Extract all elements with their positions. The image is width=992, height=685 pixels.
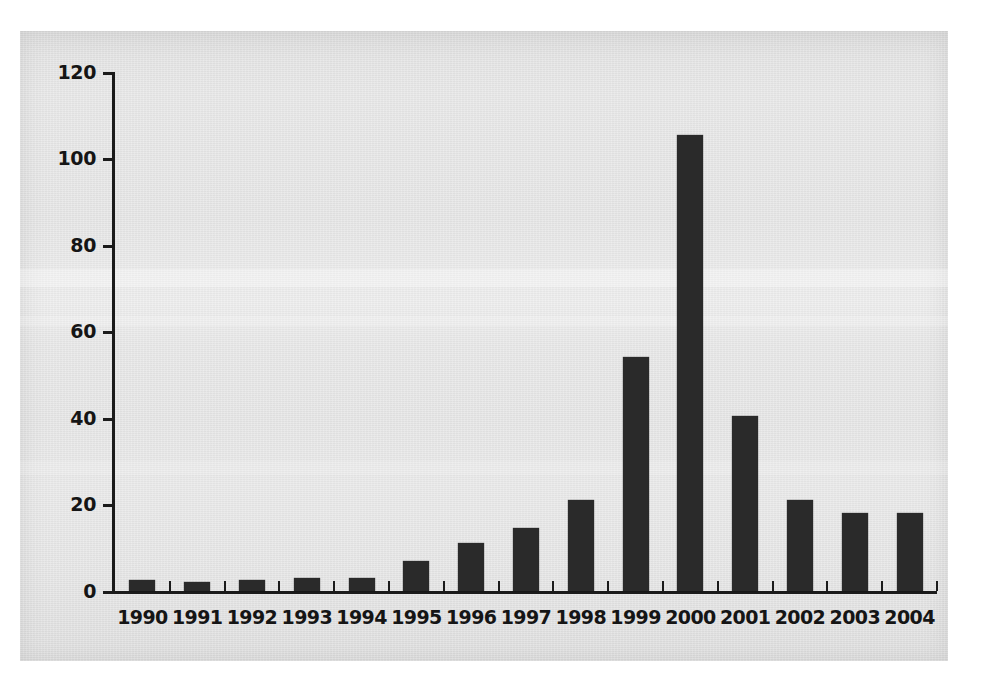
bar-2002	[787, 500, 813, 591]
bar-1999	[623, 357, 649, 591]
bar-1993	[294, 578, 320, 591]
x-tick-1992	[278, 581, 280, 591]
bar-1990	[129, 580, 155, 591]
x-axis-label-1993: 1993	[279, 608, 334, 627]
y-axis-label-40: 40	[38, 409, 96, 428]
y-tick-60	[103, 331, 113, 334]
y-axis-label-60: 60	[38, 322, 96, 341]
bar-2001	[732, 416, 758, 591]
x-axis-label-1992: 1992	[225, 608, 280, 627]
x-axis-label-2002: 2002	[773, 608, 828, 627]
figure-plate: 120 100 80 60 40 20 0 199019911992199319…	[0, 0, 992, 685]
y-axis-label-80: 80	[38, 236, 96, 255]
y-axis-label-100: 100	[38, 149, 96, 168]
y-tick-120	[103, 72, 113, 75]
x-tick-2004	[936, 581, 938, 591]
x-tick-1996	[498, 581, 500, 591]
x-tick-1997	[552, 581, 554, 591]
bar-1991	[184, 582, 210, 591]
x-axis-label-2001: 2001	[718, 608, 773, 627]
y-axis-label-120: 120	[38, 63, 96, 82]
bar-2003	[842, 513, 868, 591]
bar-1995	[403, 561, 429, 591]
x-tick-1993	[333, 581, 335, 591]
x-axis-label-1995: 1995	[389, 608, 444, 627]
y-axis-label-20: 20	[38, 495, 96, 514]
x-tick-1994	[388, 581, 390, 591]
y-tick-40	[103, 418, 113, 421]
x-tick-1991	[224, 581, 226, 591]
bar-1994	[349, 578, 375, 591]
y-axis-label-0: 0	[38, 582, 96, 601]
bar-2004	[897, 513, 923, 591]
x-axis-line	[112, 591, 937, 594]
x-tick-1998	[607, 581, 609, 591]
x-axis-label-2004: 2004	[882, 608, 937, 627]
x-tick-2000	[717, 581, 719, 591]
x-tick-1995	[443, 581, 445, 591]
x-axis-label-1990: 1990	[115, 608, 170, 627]
y-tick-100	[103, 158, 113, 161]
x-axis-label-1997: 1997	[499, 608, 554, 627]
bar-1998	[568, 500, 594, 591]
bar-2000	[677, 135, 703, 591]
y-tick-0	[103, 591, 113, 594]
x-tick-2003	[881, 581, 883, 591]
bar-1996	[458, 543, 484, 591]
x-tick-1990	[169, 581, 171, 591]
y-tick-80	[103, 245, 113, 248]
x-axis-label-1999: 1999	[608, 608, 663, 627]
x-axis-label-1991: 1991	[170, 608, 225, 627]
x-axis-label-1994: 1994	[334, 608, 389, 627]
bar-1992	[239, 580, 265, 591]
x-axis-label-2000: 2000	[663, 608, 718, 627]
x-tick-2002	[826, 581, 828, 591]
x-axis-label-2003: 2003	[827, 608, 882, 627]
bar-chart: 120 100 80 60 40 20 0 199019911992199319…	[0, 0, 992, 685]
x-axis-label-1996: 1996	[444, 608, 499, 627]
x-tick-2001	[772, 581, 774, 591]
y-tick-20	[103, 504, 113, 507]
x-axis-label-1998: 1998	[553, 608, 608, 627]
x-tick-1999	[662, 581, 664, 591]
bar-1997	[513, 528, 539, 591]
